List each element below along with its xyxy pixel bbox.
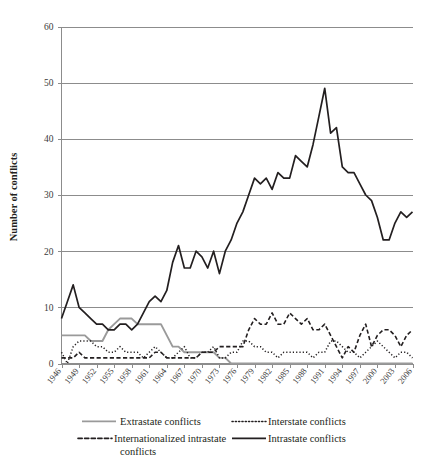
- x-tick-label-2000: 2000: [361, 366, 379, 386]
- x-tick-label-1967: 1967: [167, 366, 186, 386]
- legend-label-internationalized-intrastate: Internationalized intrastate: [114, 433, 227, 444]
- data-series: [62, 88, 413, 363]
- y-tick-labels: 0102030405060: [44, 22, 54, 369]
- x-tick-label-1961: 1961: [132, 366, 150, 386]
- y-tick-label-40: 40: [44, 134, 54, 144]
- chart-legend: Extrastate conflictsInterstate conflicts…: [78, 416, 346, 457]
- y-axis-title-text: Number of conflicts: [8, 153, 19, 241]
- y-tick-label-50: 50: [44, 78, 54, 88]
- y-tick-label-10: 10: [44, 303, 54, 313]
- x-tick-label-1979: 1979: [238, 366, 256, 386]
- x-tick-label-2003: 2003: [378, 366, 396, 386]
- x-tick-label-1988: 1988: [290, 366, 308, 386]
- chart-canvas: 0102030405060 19461949195219551958196119…: [0, 0, 431, 459]
- legend-label-intrastate: Intrastate conflicts: [268, 433, 346, 444]
- x-tick-label-1952: 1952: [80, 366, 98, 386]
- x-tick-label-2006: 2006: [396, 366, 415, 386]
- legend-label-extrastate: Extrastate conflicts: [120, 416, 201, 427]
- x-tick-label-1994: 1994: [325, 366, 344, 386]
- gridlines: [62, 28, 413, 365]
- series-line-interstate-conflicts: [62, 341, 413, 363]
- x-tick-label-1973: 1973: [203, 366, 221, 386]
- y-tick-label-60: 60: [44, 22, 54, 32]
- y-tick-label-30: 30: [44, 190, 54, 200]
- x-tick-label-1946: 1946: [45, 366, 64, 386]
- x-tick-label-1958: 1958: [115, 366, 133, 386]
- series-line-extrastate-conflicts: [62, 319, 413, 364]
- conflicts-line-chart: 0102030405060 19461949195219551958196119…: [0, 0, 431, 459]
- x-tick-label-1982: 1982: [255, 366, 273, 386]
- y-axis-title: Number of conflicts: [8, 153, 19, 241]
- x-tick-label-1955: 1955: [97, 366, 115, 386]
- x-tick-label-1970: 1970: [185, 366, 203, 386]
- x-tick-label-1991: 1991: [308, 366, 326, 386]
- x-tick-label-1964: 1964: [150, 366, 169, 386]
- y-tick-label-20: 20: [44, 247, 54, 257]
- x-tick-labels: 1946194919521955195819611964196719701973…: [45, 366, 415, 386]
- x-tick-label-1949: 1949: [62, 366, 80, 386]
- legend-label-internationalized-intrastate-line2: conflicts: [120, 446, 156, 457]
- series-line-intrastate-conflicts: [62, 88, 413, 330]
- x-tick-label-1976: 1976: [220, 366, 239, 386]
- legend-label-interstate: Interstate conflicts: [268, 416, 346, 427]
- y-axis: [58, 27, 62, 365]
- series-line-internationalized-intrastate-conflicts: [62, 313, 413, 358]
- x-tick-label-1997: 1997: [343, 366, 362, 386]
- x-tick-label-1985: 1985: [273, 366, 291, 386]
